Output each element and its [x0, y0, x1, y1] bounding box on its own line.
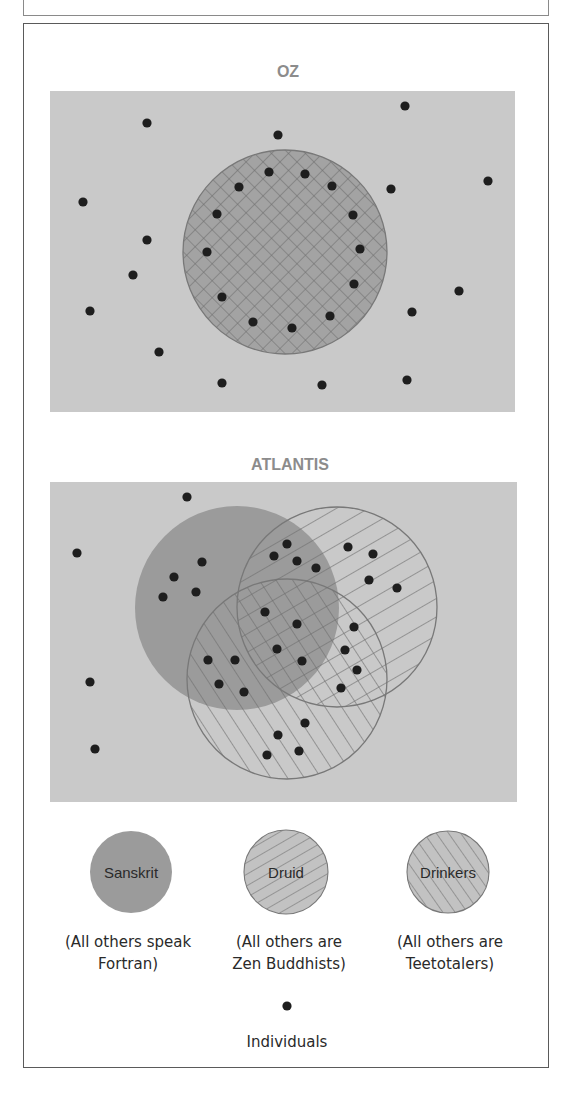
- individual-dot: [262, 750, 271, 759]
- individual-dot: [386, 184, 395, 193]
- individual-dot: [336, 683, 345, 692]
- individual-dot: [343, 542, 352, 551]
- individual-dot: [90, 744, 99, 753]
- legend-item-druid: Druid(All others areZen Buddhists): [232, 830, 346, 973]
- panel-title-atlantis: ATLANTIS: [251, 456, 329, 473]
- individual-dot: [269, 551, 278, 560]
- individual-dot: [355, 244, 364, 253]
- individual-dot: [287, 323, 296, 332]
- individual-dot: [142, 235, 151, 244]
- individual-dot: [327, 181, 336, 190]
- individual-dot: [273, 130, 282, 139]
- individual-dot: [400, 101, 409, 110]
- individual-dot: [85, 306, 94, 315]
- individual-dot: [212, 209, 221, 218]
- individual-dot: [349, 279, 358, 288]
- individual-dot: [197, 557, 206, 566]
- individual-dot: [217, 378, 226, 387]
- individual-dot: [348, 210, 357, 219]
- individual-dot: [239, 687, 248, 696]
- individual-dot: [349, 622, 358, 631]
- individual-dot: [368, 549, 377, 558]
- individual-dot: [402, 375, 411, 384]
- individual-dot: [300, 718, 309, 727]
- individual-dot: [202, 247, 211, 256]
- individual-dot: [282, 539, 291, 548]
- legend-caption-druid: (All others are: [236, 933, 342, 951]
- individual-dot: [169, 572, 178, 581]
- individual-dot: [182, 492, 191, 501]
- individual-dot: [292, 556, 301, 565]
- panel-oz: OZ: [50, 63, 515, 412]
- legend-caption-drinkers: (All others are: [397, 933, 503, 951]
- individual-dot: [311, 563, 320, 572]
- individual-dot: [203, 655, 212, 664]
- legend-caption-sanskrit: (All others speak: [65, 933, 192, 951]
- panel-title-oz: OZ: [277, 63, 299, 80]
- individual-dot: [234, 182, 243, 191]
- legend-label-drinkers: Drinkers: [420, 864, 476, 881]
- legend-caption-drinkers: Teetotalers): [405, 955, 494, 973]
- individual-dot: [191, 587, 200, 596]
- individual-dot: [300, 169, 309, 178]
- individual-dot: [297, 656, 306, 665]
- individual-dot: [72, 548, 81, 557]
- druid-circle: [237, 507, 437, 707]
- individual-dot: [352, 665, 361, 674]
- individual-dot: [292, 619, 301, 628]
- individual-dot: [340, 645, 349, 654]
- individual-dot: [407, 307, 416, 316]
- individual-dot: [294, 746, 303, 755]
- individual-dot: [392, 583, 401, 592]
- individual-dot: [260, 607, 269, 616]
- venn-diagram-figure: OZATLANTIS Sanskrit(All others speakFort…: [0, 0, 572, 1094]
- panel-atlantis: ATLANTIS: [50, 456, 517, 802]
- legend-label-sanskrit: Sanskrit: [104, 864, 159, 881]
- legend-caption-druid: Zen Buddhists): [232, 955, 346, 973]
- individual-dot: [317, 380, 326, 389]
- individual-dot: [154, 347, 163, 356]
- oz-circle: [183, 150, 387, 354]
- legend-label-individuals: Individuals: [247, 1033, 328, 1051]
- individual-dot: [325, 311, 334, 320]
- individual-dot: [217, 292, 226, 301]
- individual-dot: [272, 644, 281, 653]
- individual-dot: [158, 592, 167, 601]
- individual-dot: [230, 655, 239, 664]
- individual-dot: [128, 270, 137, 279]
- individual-dot: [142, 118, 151, 127]
- individual-dot: [273, 730, 282, 739]
- individual-dot: [364, 575, 373, 584]
- legend-individual-dot: [282, 1001, 291, 1010]
- individual-dot: [248, 317, 257, 326]
- individual-dot: [78, 197, 87, 206]
- legend-item-drinkers: Drinkers(All others areTeetotalers): [397, 831, 503, 973]
- legend-label-druid: Druid: [268, 864, 304, 881]
- legend-caption-sanskrit: Fortran): [98, 955, 158, 973]
- legend-item-sanskrit: Sanskrit(All others speakFortran): [65, 831, 192, 973]
- individual-dot: [264, 167, 273, 176]
- individual-dot: [483, 176, 492, 185]
- individual-dot: [85, 677, 94, 686]
- individual-dot: [454, 286, 463, 295]
- individual-dot: [214, 679, 223, 688]
